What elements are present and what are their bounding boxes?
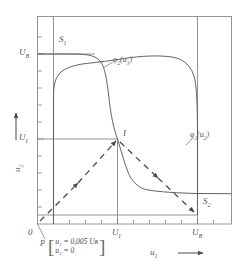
- point-label-S2: S2: [203, 197, 210, 209]
- curve-phi1: [54, 56, 198, 224]
- ytick-label-UB: UB: [19, 48, 29, 60]
- x-axis-ticks: [54, 218, 214, 225]
- annotation-line-2: u₂ = 0: [55, 247, 98, 256]
- ytick-label-UI: UI: [19, 133, 27, 145]
- leader-phi2: [103, 62, 113, 68]
- plot-frame: [38, 17, 232, 225]
- annotation-P-conditions: [ u₁ = 0,005 Uʙ u₂ = 0 ]: [48, 237, 105, 256]
- point-label-I: I: [123, 129, 126, 138]
- y-axis-label: u2: [13, 165, 25, 172]
- xtick-label-UI: UI: [112, 228, 120, 240]
- trajectory-seg-I-to-S2-b: [158, 178, 194, 212]
- curve-phi2: [38, 54, 232, 194]
- curve-label-phi2: φ2(u1): [113, 56, 132, 66]
- x-axis-label: u1: [150, 248, 157, 260]
- curve-label-phi1: φ1(u2): [190, 131, 209, 141]
- point-label-P: P: [40, 240, 45, 248]
- y-axis-ticks: [38, 37, 45, 207]
- bracket-right: ]: [99, 237, 105, 256]
- xtick-label-UB: UB: [192, 228, 202, 240]
- figure-transfer-characteristic: UB UI 0 UI UB u1 u2 S1 S2 I P φ2(u1) φ1(…: [0, 0, 251, 270]
- switching-trajectory: [40, 141, 194, 221]
- trajectory-seg-I-to-S2-a: [120, 142, 158, 178]
- xtick-label-zero: 0: [28, 228, 33, 237]
- leader-P: [38, 224, 46, 239]
- leader-lines: [38, 62, 195, 239]
- point-label-S1: S1: [59, 35, 66, 47]
- trajectory-seg-P-to-I-b: [78, 141, 116, 183]
